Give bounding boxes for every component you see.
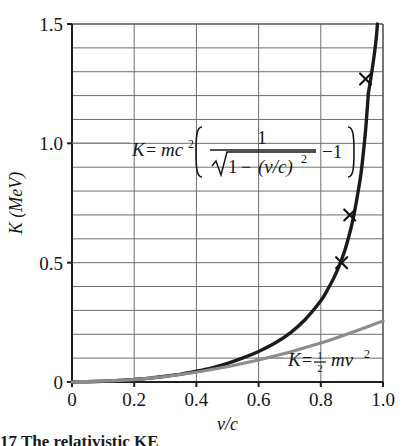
y-axis-title: K (MeV): [6, 172, 27, 235]
x-tick-label: 0.6: [247, 389, 271, 410]
gridlines-group: [72, 24, 383, 382]
x-tick-label: 1.0: [371, 389, 395, 410]
y-tick-label: 1.0: [39, 133, 63, 154]
figure-caption: 17 The relativistic KE: [0, 432, 410, 446]
rel-formula-numerator: 1: [257, 127, 267, 148]
cls-formula-frac-numerator: 1: [317, 349, 323, 361]
x-tick-label: 0.2: [122, 389, 146, 410]
data-series-group: [72, 24, 383, 382]
plot-frame: [72, 24, 383, 382]
cls-formula-exponent: 2: [364, 347, 370, 361]
rel-formula-bracket-close: [348, 127, 354, 177]
y-tick-label: 0.5: [39, 253, 63, 274]
curve-relativistic: [72, 93, 368, 382]
rel-formula-equals: =: [146, 140, 156, 160]
rel-formula-mc: mc: [161, 139, 184, 160]
x-tick-label: 0.4: [185, 389, 209, 410]
x-tick-label: 0: [67, 389, 77, 410]
tick-marks-group: [67, 24, 383, 387]
x-tick-label: 0.8: [309, 389, 333, 410]
x-axis-title: v/c: [217, 414, 238, 434]
rel-formula-denom-one: 1: [228, 156, 238, 177]
y-tick-label: 0: [54, 372, 64, 393]
rel-formula-mc-exponent: 2: [188, 137, 194, 151]
cls-formula-mv: mv: [331, 349, 354, 370]
cls-formula-K: K: [287, 349, 302, 370]
y-tick-label: 1.5: [39, 14, 63, 35]
formula-annotations-group: K=mc211−(v/c)2−1K=12mv2: [72, 127, 370, 374]
rel-formula-denom-minus: −: [241, 157, 251, 177]
rel-formula-minus-one: −1: [322, 141, 342, 162]
rel-formula-denom-vc: (v/c): [258, 156, 293, 178]
rel-formula-denom-exponent: 2: [301, 152, 307, 166]
cls-formula-frac-denominator: 2: [317, 362, 323, 374]
cls-formula-equals: =: [302, 350, 312, 370]
rel-formula-K: K: [131, 139, 146, 160]
